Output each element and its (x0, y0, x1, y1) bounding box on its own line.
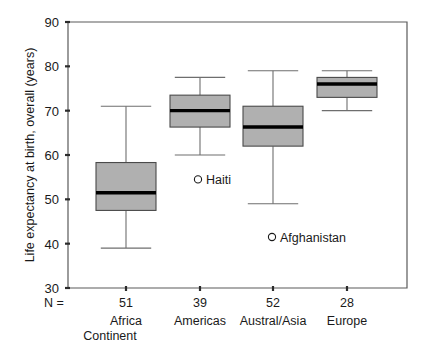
n-value-americas: 39 (193, 296, 207, 310)
outlier-label-haiti: Haiti (206, 173, 231, 187)
category-label-americas: Americas (174, 314, 226, 328)
box-europe[interactable] (317, 77, 377, 97)
category-label-europe: Europe (327, 314, 367, 328)
x-axis-title: Continent (83, 329, 137, 343)
y-tick-label: 90 (45, 15, 59, 30)
category-label-austral-asia: Austral/Asia (240, 314, 307, 328)
y-tick-label: 30 (45, 281, 59, 296)
n-value-africa: 51 (119, 296, 133, 310)
category-label-africa: Africa (110, 314, 142, 328)
y-tick-label: 70 (45, 104, 59, 119)
n-value-austral-asia: 52 (266, 296, 280, 310)
box-africa[interactable] (96, 163, 156, 211)
outlier-marker-afghanistan[interactable] (268, 233, 275, 240)
box-plot-chart: 30405060708090Life expectancy at birth, … (0, 0, 427, 348)
n-value-europe: 28 (340, 296, 354, 310)
chart-canvas: 30405060708090Life expectancy at birth, … (0, 0, 427, 348)
y-tick-label: 80 (45, 59, 59, 74)
y-tick-label: 40 (45, 237, 59, 252)
y-tick-label: 60 (45, 148, 59, 163)
outlier-marker-haiti[interactable] (194, 176, 201, 183)
y-axis-title: Life expectancy at birth, overall (years… (23, 48, 37, 263)
n-prefix-label: N = (44, 296, 64, 310)
y-tick-label: 50 (45, 192, 59, 207)
outlier-label-afghanistan: Afghanistan (280, 231, 346, 245)
